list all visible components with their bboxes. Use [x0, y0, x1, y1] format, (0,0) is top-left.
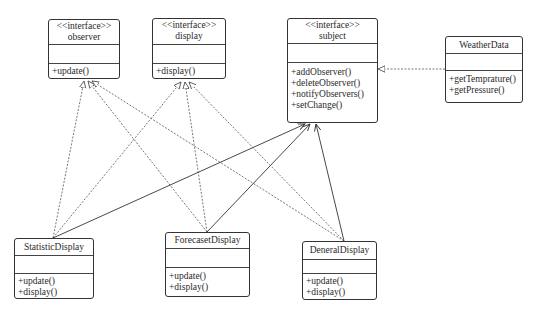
class-header: ForecasetDisplay	[166, 233, 249, 249]
class-header: <<interface>> observer	[49, 20, 119, 45]
class-name: subject	[288, 31, 377, 42]
operation: +getTemprature()	[449, 74, 522, 85]
attributes-section	[166, 249, 249, 268]
attributes-section	[303, 260, 376, 274]
class-name: WeatherData	[446, 40, 522, 51]
operation: +display()	[18, 287, 93, 298]
operation: +notifyObservers()	[291, 89, 377, 100]
stereotype-label: <<interface>>	[153, 20, 225, 31]
class-subject[interactable]: <<interface>> subject +addObserver() +de…	[287, 18, 378, 123]
class-header: DeneralDisplay	[303, 242, 376, 260]
class-header: WeatherData	[446, 37, 522, 54]
operation: +display()	[156, 66, 225, 77]
operations-section: +addObserver() +deleteObserver() +notify…	[288, 63, 377, 111]
operation: +update()	[306, 276, 376, 287]
class-forecasetdisplay[interactable]: ForecasetDisplay +update() +display()	[165, 232, 250, 297]
operation: +deleteObserver()	[291, 78, 377, 89]
operation: +update()	[169, 271, 249, 282]
attributes-section	[446, 54, 522, 71]
realization-statistic-observer	[53, 81, 84, 238]
class-header: <<interface>> display	[153, 19, 225, 45]
association-statistic-subject	[53, 124, 305, 238]
class-deneraldisplay[interactable]: DeneralDisplay +update() +display()	[302, 241, 377, 300]
operations-section: +update() +display()	[166, 268, 249, 293]
operation: +getPressure()	[449, 85, 522, 96]
class-name: display	[153, 31, 225, 42]
operations-section: +getTemprature() +getPressure()	[446, 71, 522, 96]
association-deneral-subject	[316, 124, 344, 241]
realization-forecaset-observer	[88, 81, 207, 232]
operations-section: +display()	[153, 64, 225, 77]
class-display[interactable]: <<interface>> display +display()	[152, 18, 226, 79]
class-name: StatisticDisplay	[15, 242, 93, 253]
attributes-section	[49, 45, 119, 64]
stereotype-label: <<interface>>	[49, 21, 119, 32]
association-forecaset-subject	[207, 124, 310, 232]
class-statisticdisplay[interactable]: StatisticDisplay +update() +display()	[14, 238, 94, 299]
class-weatherdata[interactable]: WeatherData +getTemprature() +getPressur…	[445, 36, 523, 103]
operations-section: +update()	[49, 64, 119, 77]
operation: +update()	[52, 66, 119, 77]
attributes-section	[288, 44, 377, 63]
class-name: ForecasetDisplay	[166, 235, 249, 246]
operations-section: +update() +display()	[15, 274, 93, 298]
stereotype-label: <<interface>>	[288, 20, 377, 31]
attributes-section	[15, 256, 93, 274]
class-header: <<interface>> subject	[288, 19, 377, 44]
operation: +display()	[169, 282, 249, 293]
operation: +setChange()	[291, 100, 377, 111]
operation: +display()	[306, 287, 376, 298]
class-name: observer	[49, 32, 119, 43]
class-name: DeneralDisplay	[303, 245, 376, 256]
attributes-section	[153, 45, 225, 64]
uml-class-diagram: <<interface>> observer +update() <<inter…	[0, 0, 537, 313]
operation: +update()	[18, 276, 93, 287]
operations-section: +update() +display()	[303, 274, 376, 298]
class-observer[interactable]: <<interface>> observer +update()	[48, 19, 120, 79]
realization-statistic-display	[53, 82, 181, 238]
operation: +addObserver()	[291, 67, 377, 78]
realization-forecaset-display	[185, 82, 207, 232]
class-header: StatisticDisplay	[15, 239, 93, 256]
